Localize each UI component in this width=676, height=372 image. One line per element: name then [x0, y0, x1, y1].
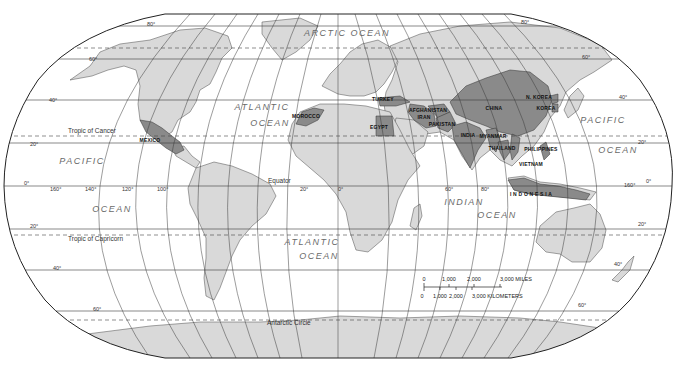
country-label-turkey: TURKEY — [372, 96, 394, 102]
latitude-label: 60° — [89, 56, 97, 62]
country-label-philippines: PHILIPPINES — [524, 146, 558, 152]
tropic-capricorn-label: Tropic of Capricorn — [68, 235, 123, 243]
ocean-label: PACIFIC — [59, 156, 104, 166]
country-label-thailand: THAILAND — [488, 145, 515, 151]
scale-miles-tick: 2,000 — [467, 276, 481, 282]
latitude-label: 80° — [147, 21, 155, 27]
map-canvas: ARCTIC OCEANATLANTICOCEANPACIFICOCEANPAC… — [0, 0, 676, 372]
scale-km-tick: 2,000 — [449, 293, 463, 299]
longitude-label: 80° — [481, 186, 489, 192]
latitude-label: 20° — [30, 223, 38, 229]
longitude-label: 0° — [338, 186, 343, 192]
ocean-label: PACIFIC — [580, 115, 625, 125]
country-label-pakistan: PAKISTAN — [429, 121, 456, 127]
scale-km-tick: 3,000 KILOMETERS — [472, 293, 523, 299]
tropic-cancer-label: Tropic of Cancer — [68, 127, 117, 135]
country-label-iran: IRAN — [417, 114, 430, 120]
latitude-label: 20° — [30, 141, 38, 147]
country-label-vietnam: VIETNAM — [519, 161, 543, 167]
ocean-label: ARCTIC OCEAN — [303, 28, 390, 38]
latitude-label: 80° — [521, 19, 529, 25]
country-label-morocco: MOROCCO — [292, 113, 320, 119]
latitude-label: 0° — [24, 180, 29, 186]
latitude-label: 60° — [93, 306, 101, 312]
country-label-indonesia: I N D O N E S I A — [510, 191, 552, 197]
world-map: ARCTIC OCEANATLANTICOCEANPACIFICOCEANPAC… — [0, 0, 676, 372]
antarctic-circle-label: Antarctic Circle — [267, 319, 311, 326]
ocean-label: ATLANTIC — [284, 237, 340, 247]
longitude-label: 160° — [50, 186, 61, 192]
latitude-label: 40° — [53, 265, 61, 271]
longitude-label: 100° — [157, 186, 168, 192]
latitude-label: 20° — [638, 221, 646, 227]
equator-label: Equator — [268, 177, 292, 185]
country-label-afghanistan: AFGHANISTAN — [409, 107, 447, 113]
ocean-label: OCEAN — [92, 204, 132, 214]
latitude-label: 60° — [582, 54, 590, 60]
ocean-label: OCEAN — [299, 251, 339, 261]
country-label-korea: KOREA — [536, 105, 555, 111]
scale-km-tick: 1,000 — [433, 293, 447, 299]
scale-miles-tick: 3,000 MILES — [500, 276, 532, 282]
country-label-n-korea: N. KOREA — [526, 94, 552, 100]
latitude-label: 40° — [614, 261, 622, 267]
country-label-egypt: EGYPT — [370, 124, 388, 130]
latitude-label: 20° — [638, 139, 646, 145]
latitude-label: 40° — [619, 94, 627, 100]
ocean-label: OCEAN — [250, 118, 290, 128]
country-label-mexico: MEXICO — [140, 137, 161, 143]
country-label-india: INDIA — [461, 132, 476, 138]
scale-miles-tick: 0 — [422, 276, 425, 282]
latitude-label: 60° — [578, 302, 586, 308]
country-label-china: CHINA — [486, 105, 503, 111]
ocean-label: ATLANTIC — [234, 102, 290, 112]
country-label-myanmar: MYANMAR — [479, 133, 506, 139]
longitude-label: 140° — [85, 186, 96, 192]
longitude-label: 60° — [445, 186, 453, 192]
latitude-label: 0° — [646, 178, 651, 184]
longitude-label: 20° — [300, 186, 308, 192]
scale-km-tick: 0 — [420, 293, 423, 299]
ocean-label: OCEAN — [477, 210, 517, 220]
ocean-label: OCEAN — [598, 145, 638, 155]
latitude-label: 40° — [49, 97, 57, 103]
scale-miles-tick: 1,000 — [442, 276, 456, 282]
longitude-label: 120° — [122, 186, 133, 192]
longitude-label: 160° — [624, 182, 635, 188]
ocean-label: INDIAN — [444, 197, 484, 207]
